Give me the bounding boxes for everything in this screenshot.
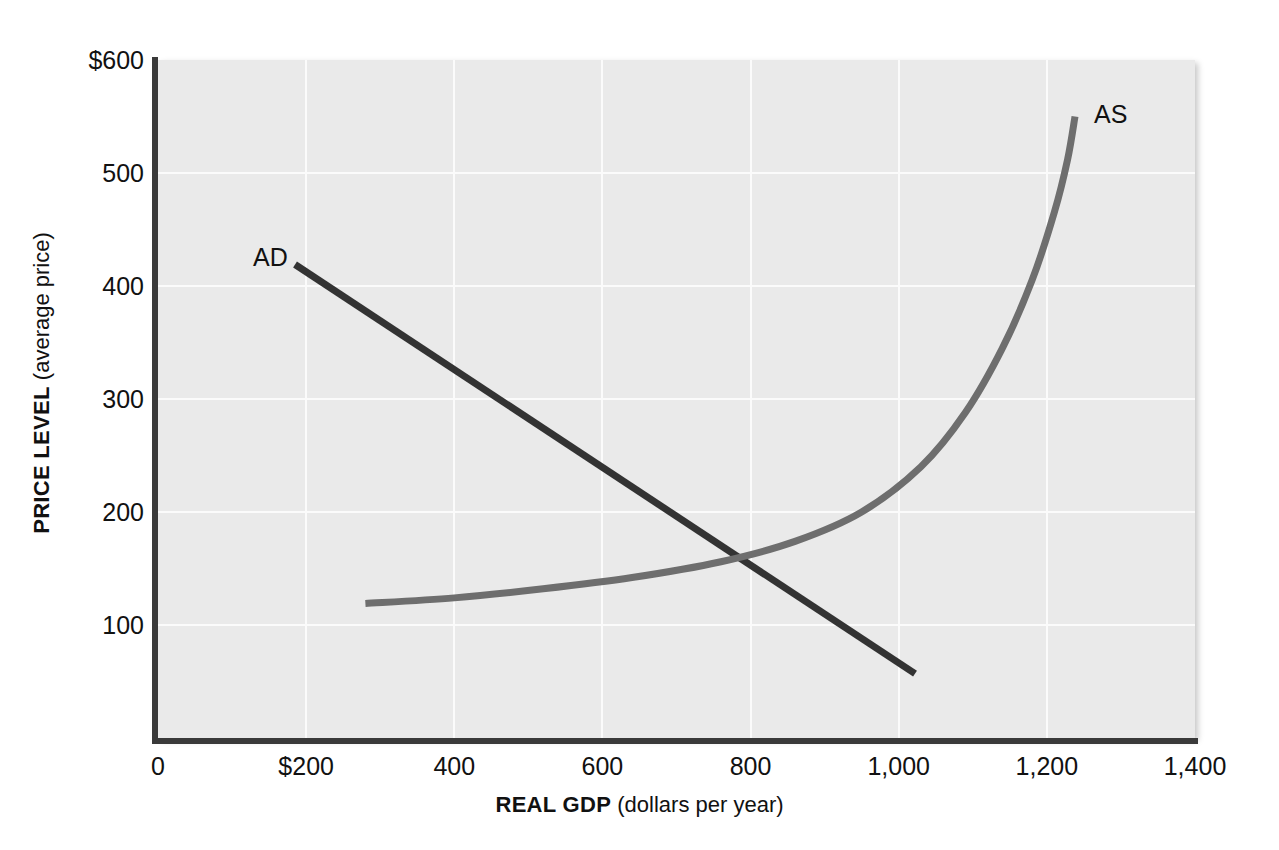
- x-tick-label: 1,000: [867, 752, 930, 781]
- plot-area: [158, 60, 1195, 738]
- y-axis-line: [152, 57, 158, 744]
- x-tick-label: 800: [730, 752, 772, 781]
- y-tick-label: 500: [102, 159, 144, 188]
- x-tick-label: $200: [278, 752, 334, 781]
- y-tick-label: 100: [102, 611, 144, 640]
- figure-canvas: $600500400300200100 0$2004006008001,0001…: [0, 0, 1279, 850]
- gridlines: [158, 60, 1195, 738]
- gridline-horizontal: [158, 285, 1195, 287]
- gridline-horizontal: [158, 624, 1195, 626]
- gridline-horizontal: [158, 172, 1195, 174]
- y-axis-title-rest: (average price): [29, 232, 54, 386]
- x-tick-label: 1,200: [1016, 752, 1079, 781]
- y-tick-label: 300: [102, 385, 144, 414]
- x-axis-line: [152, 738, 1198, 744]
- y-tick-label: 400: [102, 272, 144, 301]
- curve-label-ad: AD: [253, 243, 288, 272]
- x-axis-title-strong: REAL GDP: [495, 792, 611, 817]
- y-axis-title-strong: PRICE LEVEL: [29, 386, 54, 534]
- x-axis-title: REAL GDP (dollars per year): [0, 792, 1279, 818]
- y-tick-label: 200: [102, 498, 144, 527]
- gridline-horizontal: [158, 398, 1195, 400]
- x-axis-title-rest: (dollars per year): [611, 792, 783, 817]
- x-tick-label: 400: [433, 752, 475, 781]
- x-tick-label: 1,400: [1164, 752, 1227, 781]
- curve-label-as: AS: [1094, 100, 1127, 129]
- x-tick-label: 600: [582, 752, 624, 781]
- y-tick-label: $600: [88, 46, 144, 75]
- x-tick-label: 0: [151, 752, 165, 781]
- gridline-horizontal: [158, 511, 1195, 513]
- y-axis-title: PRICE LEVEL (average price): [29, 133, 55, 633]
